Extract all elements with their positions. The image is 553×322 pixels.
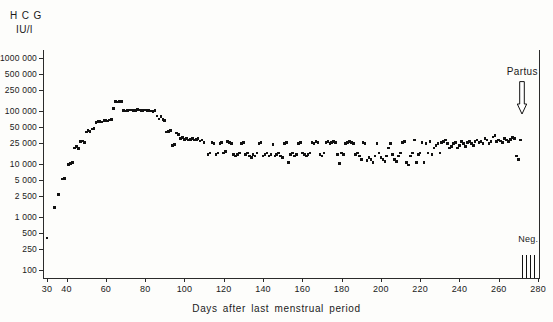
data-point <box>323 152 326 155</box>
y-axis-tick <box>39 111 43 112</box>
data-point <box>395 160 398 163</box>
data-point <box>413 139 416 142</box>
data-point <box>454 141 457 144</box>
y-axis-tick <box>39 143 43 144</box>
data-point <box>287 161 290 164</box>
data-point <box>490 140 493 143</box>
x-axis-tick-label: 160 <box>294 284 310 294</box>
y-axis-tick <box>39 196 43 197</box>
data-point <box>336 153 339 156</box>
y-axis-line <box>43 50 44 278</box>
data-point <box>372 161 375 164</box>
data-point <box>397 155 400 158</box>
y-axis-tick <box>39 249 43 250</box>
data-point <box>374 155 377 158</box>
y-axis-tick-label: 100 000 <box>5 106 37 116</box>
y-axis-tick <box>39 180 43 181</box>
data-point <box>260 141 263 144</box>
x-axis-tick-label: 140 <box>255 284 271 294</box>
data-point <box>444 139 447 142</box>
data-point <box>458 144 461 147</box>
data-point <box>389 142 392 145</box>
data-point <box>321 155 324 158</box>
x-axis-tick <box>302 278 303 282</box>
plot-area: 1000 000500 000250 000100 00050 00025 00… <box>43 50 540 278</box>
data-point <box>230 142 233 145</box>
data-point <box>517 158 520 161</box>
y-axis-tick-label: 25 000 <box>10 138 37 148</box>
data-point <box>83 141 86 144</box>
data-point <box>154 109 157 112</box>
data-point <box>272 143 275 146</box>
neg-result-tick <box>522 255 523 278</box>
data-point <box>53 206 56 209</box>
y-axis-tick <box>39 217 43 218</box>
data-point <box>110 118 113 121</box>
neg-result-tick <box>534 255 535 278</box>
data-point <box>409 155 412 158</box>
data-point <box>112 107 115 110</box>
x-axis-tick-label: 260 <box>491 284 507 294</box>
data-point <box>421 141 424 144</box>
data-point <box>46 237 49 240</box>
data-point <box>385 155 388 158</box>
x-axis-tick <box>381 278 382 282</box>
data-point <box>220 141 223 144</box>
x-axis-tick <box>538 278 539 282</box>
y-axis-unit-iu: IU <box>16 24 27 35</box>
x-axis-tick <box>224 278 225 282</box>
data-point <box>358 155 361 158</box>
neg-result-tick <box>530 255 531 278</box>
x-axis-line <box>43 278 540 279</box>
y-axis-tick <box>39 270 43 271</box>
data-point <box>411 152 414 155</box>
data-point <box>256 152 259 155</box>
x-axis-tick-label: 220 <box>412 284 428 294</box>
x-axis-tick-label: 120 <box>216 284 232 294</box>
data-point <box>501 141 504 144</box>
data-point <box>295 153 298 156</box>
data-point <box>57 193 60 196</box>
y-axis-tick <box>39 74 43 75</box>
data-point <box>376 142 379 145</box>
x-axis-tick-label: 80 <box>140 284 150 294</box>
data-point <box>515 155 518 158</box>
data-point <box>407 164 410 167</box>
y-axis-tick <box>39 90 43 91</box>
data-point <box>317 141 320 144</box>
data-point <box>338 162 341 165</box>
data-point <box>384 160 387 163</box>
data-point <box>238 152 241 155</box>
right-border-line <box>539 50 540 278</box>
data-point <box>423 161 426 164</box>
data-point <box>120 100 123 103</box>
x-axis-tick-label: 200 <box>373 284 389 294</box>
data-point <box>342 153 345 156</box>
neg-label: Neg. <box>518 234 538 244</box>
data-point <box>429 140 432 143</box>
data-point <box>173 143 176 146</box>
y-axis-tick-label: 5 000 <box>15 175 37 185</box>
data-point <box>419 152 422 155</box>
data-point <box>439 152 442 155</box>
x-axis-tick <box>47 278 48 282</box>
data-point <box>93 127 96 130</box>
data-point <box>250 156 253 159</box>
data-point <box>415 161 418 164</box>
x-axis-tick-label: 40 <box>61 284 71 294</box>
data-point <box>486 139 489 142</box>
data-point <box>399 152 402 155</box>
y-axis-tick <box>39 233 43 234</box>
y-axis-tick-label: 500 <box>22 228 37 238</box>
x-axis-tick-label: 30 <box>42 284 52 294</box>
data-point <box>163 119 166 122</box>
data-point <box>281 156 284 159</box>
data-point <box>169 129 172 132</box>
data-point <box>437 142 440 145</box>
y-axis-unit-line1: H C G <box>10 10 42 21</box>
x-axis-tick <box>342 278 343 282</box>
x-axis-tick <box>106 278 107 282</box>
data-point <box>299 141 302 144</box>
y-axis-tick-label: 2 500 <box>15 191 37 201</box>
y-axis-tick-label: 50 000 <box>10 122 37 132</box>
